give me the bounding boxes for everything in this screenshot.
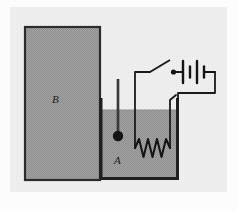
apparatus-diagram-canvas [0, 0, 237, 211]
figure-root: B A [0, 0, 237, 211]
thermometer-bulb [113, 131, 123, 141]
block-b [25, 27, 100, 180]
switch-terminal-dot[interactable] [171, 69, 176, 74]
label-liquid-a: A [114, 155, 121, 166]
block-b-fill [25, 27, 100, 180]
label-block-b: B [52, 94, 59, 105]
